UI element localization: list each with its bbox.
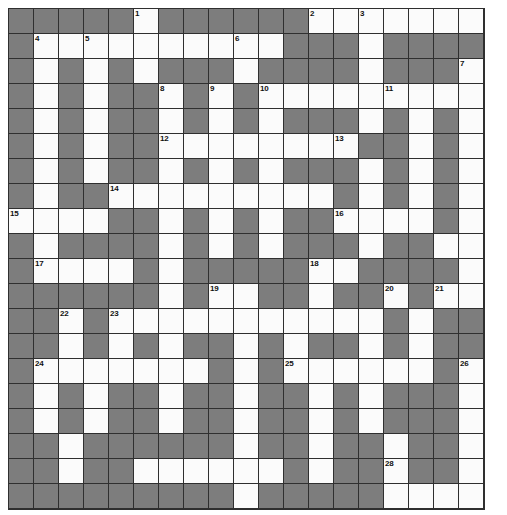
- crossword-open-cell[interactable]: [59, 359, 84, 384]
- crossword-open-cell[interactable]: [59, 259, 84, 284]
- crossword-open-cell[interactable]: [159, 184, 184, 209]
- crossword-open-cell[interactable]: [459, 209, 484, 234]
- crossword-open-cell[interactable]: [209, 209, 234, 234]
- crossword-open-cell[interactable]: [259, 459, 284, 484]
- crossword-open-cell[interactable]: [434, 9, 459, 34]
- crossword-open-cell[interactable]: [59, 34, 84, 59]
- crossword-open-cell[interactable]: [459, 409, 484, 434]
- crossword-open-cell[interactable]: [334, 309, 359, 334]
- crossword-open-cell[interactable]: [209, 109, 234, 134]
- crossword-open-cell[interactable]: 13: [334, 134, 359, 159]
- crossword-open-cell[interactable]: [309, 184, 334, 209]
- crossword-open-cell[interactable]: [184, 184, 209, 209]
- crossword-open-cell[interactable]: [209, 34, 234, 59]
- crossword-open-cell[interactable]: [359, 34, 384, 59]
- crossword-open-cell[interactable]: [59, 209, 84, 234]
- crossword-open-cell[interactable]: 18: [309, 259, 334, 284]
- crossword-open-cell[interactable]: [409, 84, 434, 109]
- crossword-open-cell[interactable]: 5: [84, 34, 109, 59]
- crossword-open-cell[interactable]: [234, 309, 259, 334]
- crossword-open-cell[interactable]: [309, 384, 334, 409]
- crossword-open-cell[interactable]: [84, 109, 109, 134]
- crossword-open-cell[interactable]: 17: [34, 259, 59, 284]
- crossword-open-cell[interactable]: [234, 359, 259, 384]
- crossword-open-cell[interactable]: [334, 84, 359, 109]
- crossword-open-cell[interactable]: [459, 459, 484, 484]
- crossword-open-cell[interactable]: [309, 459, 334, 484]
- crossword-open-cell[interactable]: [284, 184, 309, 209]
- crossword-open-cell[interactable]: [34, 409, 59, 434]
- crossword-open-cell[interactable]: [334, 359, 359, 384]
- crossword-open-cell[interactable]: [384, 434, 409, 459]
- crossword-open-cell[interactable]: [384, 359, 409, 384]
- crossword-open-cell[interactable]: [234, 184, 259, 209]
- crossword-open-cell[interactable]: [209, 309, 234, 334]
- crossword-open-cell[interactable]: [34, 384, 59, 409]
- crossword-open-cell[interactable]: [409, 134, 434, 159]
- crossword-open-cell[interactable]: [109, 334, 134, 359]
- crossword-open-cell[interactable]: [384, 484, 409, 509]
- crossword-open-cell[interactable]: [359, 384, 384, 409]
- crossword-open-cell[interactable]: [459, 434, 484, 459]
- crossword-open-cell[interactable]: [359, 309, 384, 334]
- crossword-open-cell[interactable]: [459, 9, 484, 34]
- crossword-open-cell[interactable]: [334, 259, 359, 284]
- crossword-open-cell[interactable]: [209, 159, 234, 184]
- crossword-open-cell[interactable]: 16: [334, 209, 359, 234]
- crossword-open-cell[interactable]: [184, 34, 209, 59]
- crossword-open-cell[interactable]: [159, 109, 184, 134]
- crossword-open-cell[interactable]: [84, 209, 109, 234]
- crossword-open-cell[interactable]: [309, 309, 334, 334]
- crossword-open-cell[interactable]: [434, 484, 459, 509]
- crossword-open-cell[interactable]: [459, 159, 484, 184]
- crossword-open-cell[interactable]: [309, 84, 334, 109]
- crossword-open-cell[interactable]: [234, 434, 259, 459]
- crossword-open-cell[interactable]: [159, 234, 184, 259]
- crossword-open-cell[interactable]: 23: [109, 309, 134, 334]
- crossword-open-cell[interactable]: [409, 309, 434, 334]
- crossword-open-cell[interactable]: 10: [259, 84, 284, 109]
- crossword-open-cell[interactable]: [134, 459, 159, 484]
- crossword-open-cell[interactable]: [34, 184, 59, 209]
- crossword-open-cell[interactable]: [359, 159, 384, 184]
- crossword-open-cell[interactable]: [184, 459, 209, 484]
- crossword-open-cell[interactable]: [109, 359, 134, 384]
- crossword-open-cell[interactable]: [84, 384, 109, 409]
- crossword-open-cell[interactable]: [84, 84, 109, 109]
- crossword-open-cell[interactable]: [284, 334, 309, 359]
- crossword-open-cell[interactable]: [359, 59, 384, 84]
- crossword-open-cell[interactable]: [34, 59, 59, 84]
- crossword-open-cell[interactable]: [259, 209, 284, 234]
- crossword-open-cell[interactable]: [234, 459, 259, 484]
- crossword-open-cell[interactable]: [409, 109, 434, 134]
- crossword-open-cell[interactable]: [159, 384, 184, 409]
- crossword-open-cell[interactable]: [259, 159, 284, 184]
- crossword-open-cell[interactable]: [159, 259, 184, 284]
- crossword-open-cell[interactable]: [34, 134, 59, 159]
- crossword-open-cell[interactable]: [184, 359, 209, 384]
- crossword-open-cell[interactable]: [359, 359, 384, 384]
- crossword-open-cell[interactable]: [34, 109, 59, 134]
- crossword-open-cell[interactable]: 19: [209, 284, 234, 309]
- crossword-open-cell[interactable]: [409, 359, 434, 384]
- crossword-open-cell[interactable]: [84, 359, 109, 384]
- crossword-open-cell[interactable]: [459, 384, 484, 409]
- crossword-open-cell[interactable]: 15: [9, 209, 34, 234]
- crossword-open-cell[interactable]: [359, 109, 384, 134]
- crossword-open-cell[interactable]: 26: [459, 359, 484, 384]
- crossword-open-cell[interactable]: [359, 184, 384, 209]
- crossword-open-cell[interactable]: [159, 459, 184, 484]
- crossword-open-cell[interactable]: [259, 234, 284, 259]
- crossword-open-cell[interactable]: [459, 284, 484, 309]
- crossword-grid[interactable]: 1234567891011121314151617181920212223242…: [8, 8, 485, 510]
- crossword-open-cell[interactable]: [309, 409, 334, 434]
- crossword-open-cell[interactable]: [134, 309, 159, 334]
- crossword-open-cell[interactable]: 11: [384, 84, 409, 109]
- crossword-open-cell[interactable]: [359, 84, 384, 109]
- crossword-open-cell[interactable]: [234, 384, 259, 409]
- crossword-open-cell[interactable]: [159, 34, 184, 59]
- crossword-open-cell[interactable]: [34, 159, 59, 184]
- crossword-open-cell[interactable]: [234, 134, 259, 159]
- crossword-open-cell[interactable]: [409, 334, 434, 359]
- crossword-open-cell[interactable]: 3: [359, 9, 384, 34]
